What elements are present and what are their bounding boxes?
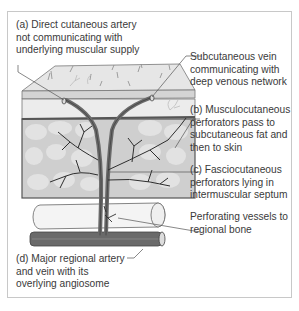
label-line: perforators pass to [190, 117, 290, 130]
label-line: perforators lying in [190, 177, 287, 190]
label-subcutaneous-vein: Subcutaneous vein communicating with dee… [190, 51, 287, 89]
major-regional-vessels [30, 232, 165, 246]
label-line: Subcutaneous vein [190, 51, 287, 64]
label-line: regional bone [190, 224, 288, 237]
label-line: underlying muscular supply [16, 44, 139, 57]
label-c-fasciocutaneous-perforators: (c) Fasciocutaneous perforators lying in… [190, 164, 287, 202]
label-b-musculocutaneous-perforators: (b) Musculocutaneous perforators pass to… [190, 104, 290, 154]
label-line: deep venous network [190, 76, 287, 89]
label-a-direct-cutaneous-artery: (a) Direct cutaneous artery not communic… [16, 19, 139, 57]
label-line: (c) Fasciocutaneous [190, 164, 287, 177]
label-line: Perforating vessels to [190, 211, 288, 224]
label-line: subcutaneous fat and [190, 129, 290, 142]
label-line: intermuscular septum [190, 189, 287, 202]
dermis-band [22, 90, 195, 99]
label-line: (d) Major regional artery [16, 253, 125, 266]
label-line: (b) Musculocutaneous [190, 104, 290, 117]
label-line: communicating with [190, 64, 287, 77]
label-line: (a) Direct cutaneous artery [16, 19, 139, 32]
label-line: and vein with its [16, 266, 125, 279]
label-d-major-regional-artery: (d) Major regional artery and vein with … [16, 253, 125, 291]
label-perforating-vessels-bone: Perforating vessels to regional bone [190, 211, 288, 236]
label-line: then to skin [190, 142, 290, 155]
label-line: overlying angiosome [16, 278, 125, 291]
label-line: not communicating with [16, 32, 139, 45]
skin-surface [22, 64, 195, 91]
